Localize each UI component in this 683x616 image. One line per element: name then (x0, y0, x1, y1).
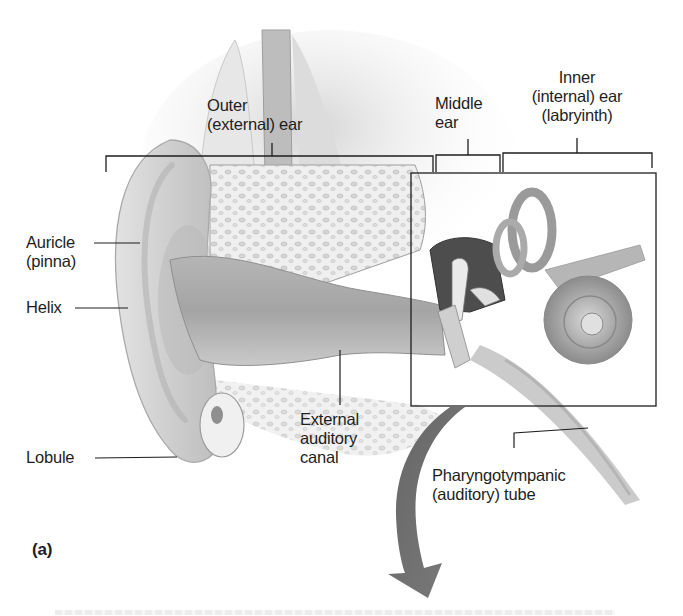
lobule-leader (95, 457, 177, 458)
cochlea-apex (581, 313, 603, 335)
region-label-outer: Outer (external) ear (207, 96, 302, 134)
label-lobule: Lobule (26, 448, 74, 467)
label-helix: Helix (26, 298, 62, 317)
lobule-vessel (211, 406, 223, 424)
ear-anatomy-figure: Outer (external) ear Middle ear Inner (i… (0, 0, 683, 616)
label-pharyngotympanic-tube: Pharyngotympanic (auditory) tube (432, 466, 565, 504)
region-label-middle: Middle ear (435, 94, 482, 132)
label-external-auditory-canal: External auditory canal (300, 410, 359, 467)
lobule-section (200, 393, 244, 457)
region-label-inner: Inner (internal) ear (labryinth) (520, 68, 634, 125)
cropped-caption-strip (55, 610, 615, 615)
panel-label: (a) (32, 540, 52, 559)
inner-ear-bracket (503, 153, 652, 172)
label-auricle: Auricle (pinna) (26, 233, 76, 271)
